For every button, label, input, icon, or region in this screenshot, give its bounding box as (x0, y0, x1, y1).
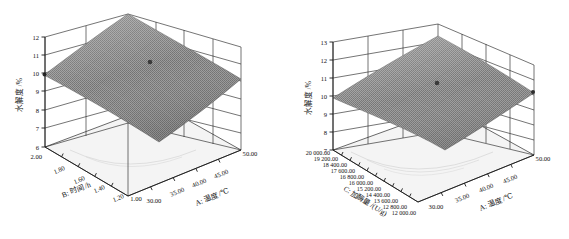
right-response-surface-mesh (333, 36, 534, 150)
left-ztick-6: 6 (36, 144, 40, 151)
left-ztick-5: 7 (36, 125, 40, 132)
right-x-axis-label: A: 温度 /℃ (478, 191, 514, 213)
right-xtick-3: 45.00 (502, 172, 519, 184)
left-ztick-1: 11 (33, 52, 39, 59)
left-plot-canvas: 12 11 10 9 8 7 6 水解度 /% 2.00 1.80 1.60 1… (0, 0, 285, 239)
left-surface-plot-panel: 12 11 10 9 8 7 6 水解度 /% 2.00 1.80 1.60 1… (0, 0, 285, 239)
right-ztick-0: 13 (320, 39, 327, 46)
left-ztick-3: 9 (36, 88, 40, 95)
right-ztick-4: 9 (324, 111, 328, 118)
right-plot-canvas: 13 12 11 10 9 8 7 水解度 /% 20 000.00 (285, 0, 569, 239)
left-ztick-2: 10 (32, 70, 39, 77)
left-z-axis (42, 37, 46, 147)
right-design-point-marker (531, 90, 535, 94)
left-xtick-4: 50.00 (243, 150, 259, 157)
right-design-point-marker (435, 81, 440, 86)
left-ytick-1: 1.80 (52, 164, 66, 175)
right-z-axis (330, 42, 334, 150)
response-surface-figure: 12 11 10 9 8 7 6 水解度 /% 2.00 1.80 1.60 1… (0, 0, 569, 239)
left-xtick-3: 45.00 (213, 167, 230, 179)
right-z-axis-label: 水解度 /% (303, 80, 313, 115)
right-xtick-1: 35.00 (454, 191, 471, 203)
left-ztick-4: 8 (36, 107, 40, 114)
right-ztick-2: 11 (321, 75, 327, 82)
right-surface-plot-panel: 13 12 11 10 9 8 7 水解度 /% 20 000.00 (285, 0, 569, 239)
left-x-axis-label: A: 温度 /℃ (194, 186, 230, 208)
left-z-axis-label: 水解度 /% (14, 77, 24, 112)
right-ytick-10: 12 000.00 (392, 210, 416, 216)
left-ytick-3: 1.40 (92, 183, 106, 194)
right-ztick-5: 8 (324, 129, 328, 136)
left-design-point-marker (148, 60, 153, 65)
right-ztick-1: 12 (320, 57, 327, 64)
right-xtick-2: 40.00 (478, 181, 495, 193)
left-xtick-1: 35.00 (169, 185, 186, 197)
right-xtick-0: 30.00 (429, 203, 445, 210)
left-response-surface-mesh (44, 14, 241, 142)
right-xtick-4: 50.00 (536, 155, 552, 162)
left-ztick-0: 12 (32, 34, 39, 41)
left-ytick-5: 1.00 (130, 195, 142, 202)
left-xtick-0: 30.00 (147, 197, 163, 204)
left-ytick-0: 2.00 (30, 153, 42, 160)
right-ztick-3: 10 (320, 93, 327, 100)
left-xtick-2: 40.00 (191, 176, 208, 188)
